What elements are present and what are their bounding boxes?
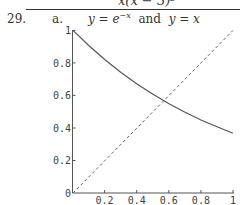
x-tick-0.2: 0.2 — [96, 195, 114, 205]
y-tick-0: 0 — [65, 188, 71, 199]
y-tick-labels: 1 0.8 0.6 0.4 0.2 0 — [53, 25, 71, 199]
y-tick-0.2: 0.2 — [53, 155, 71, 166]
x-tick-1: 1 — [230, 195, 236, 205]
series-y-equals-exp-neg-x — [73, 30, 233, 133]
x-tick-0.8: 0.8 — [192, 195, 210, 205]
y-tick-0.6: 0.6 — [53, 90, 71, 101]
y-tick-1: 1 — [65, 25, 71, 36]
x-tick-labels: 0.2 0.4 0.6 0.8 1 — [96, 195, 236, 205]
x-tick-0.4: 0.4 — [128, 195, 146, 205]
series-y-equals-x — [73, 30, 233, 193]
plot-figure: 1 0.8 0.6 0.4 0.2 0 0.2 0.4 0.6 0.8 1 — [0, 0, 240, 205]
x-tick-0.6: 0.6 — [160, 195, 178, 205]
y-tick-0.4: 0.4 — [53, 123, 71, 134]
y-tick-0.8: 0.8 — [53, 58, 71, 69]
